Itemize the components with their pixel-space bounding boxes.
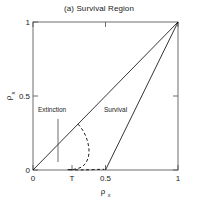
x-tick-label-1: 1 [176,174,181,183]
x-tick-label-0: 0 [31,174,36,183]
extinction-label: Extinction [38,106,67,113]
series-dashed-boundary-curve [68,124,105,170]
y-axis-label-rho: ρ [4,95,13,100]
x-tick-label-T: T [70,174,75,183]
series-boundary-line [106,22,179,170]
y-tick-label-1: 1 [26,18,31,27]
series-diagonal-line [33,22,178,170]
y-axis-label-sub: x [10,91,16,94]
survival-label: Survival [104,106,128,113]
x-axis-label-rho: ρ [101,187,106,196]
chart-figure: (a) Survival Region 0 T 0.5 1 [0,0,198,205]
y-tick-label-0: 0 [26,166,31,175]
x-tick-label-half: 0.5 [100,174,112,183]
y-axis-label: ρ x [4,91,16,100]
survival-region-plot: 0 T 0.5 1 0 0.5 1 ρ x ρ x Extinction Sur… [0,0,198,205]
x-axis-label: ρ x [101,187,111,198]
x-axis-label-sub: x [108,192,111,198]
y-tick-label-half: 0.5 [19,92,31,101]
